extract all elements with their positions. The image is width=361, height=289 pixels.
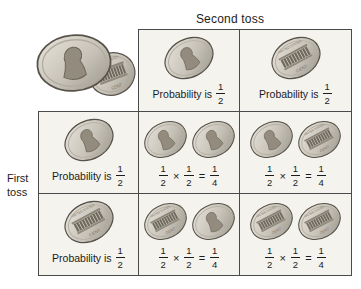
fraction-one-half: 1 2	[323, 82, 332, 105]
probability-text: Probability is	[259, 88, 319, 100]
decorative-coins	[30, 30, 142, 102]
outcome-cell-heads-heads: 12 × 12 = 14	[139, 112, 240, 194]
probability-text: Probability is	[52, 252, 112, 264]
probability-label: Probability is 1 2	[153, 82, 226, 105]
fraction-numerator: 1	[184, 246, 193, 258]
fraction-numerator: 1	[184, 164, 193, 176]
multiply-sign: ×	[173, 252, 179, 264]
fraction-denominator: 2	[161, 176, 166, 187]
penny-tails-icon	[291, 113, 347, 165]
coin-pair	[141, 197, 237, 246]
coin-pair	[141, 115, 237, 164]
fraction-denominator: 2	[267, 176, 272, 187]
probability-label: Probability is 1 2	[52, 246, 125, 269]
penny-tails-icon	[243, 195, 299, 247]
fraction-numerator: 1	[210, 164, 219, 176]
fraction-denominator: 4	[212, 176, 217, 187]
coin-row	[41, 115, 136, 164]
fraction-one-half: 12	[184, 246, 193, 269]
fraction-denominator: 2	[118, 176, 123, 187]
fraction-denominator: 4	[319, 258, 324, 269]
fraction-one-half: 12	[265, 164, 274, 187]
fraction-numerator: 1	[116, 246, 125, 258]
penny-tails-icon	[263, 30, 328, 87]
header-cell-heads: Probability is 1 2	[139, 30, 240, 111]
fraction-one-fourth: 14	[210, 164, 219, 187]
row-label-heads: Probability is 1 2	[39, 112, 139, 194]
penny-heads-icon	[33, 30, 115, 96]
fraction-one-half: 1 2	[116, 246, 125, 269]
penny-heads-icon	[243, 113, 299, 165]
fraction-one-half: 12	[159, 246, 168, 269]
fraction-one-half: 12	[291, 164, 300, 187]
penny-heads-icon	[157, 30, 222, 87]
probability-equation: 12 × 12 = 14	[265, 164, 326, 187]
fraction-denominator: 2	[186, 176, 191, 187]
penny-heads-icon	[56, 112, 121, 169]
row-label-tails: Probability is 1 2	[39, 194, 139, 275]
fraction-one-fourth: 14	[317, 164, 326, 187]
fraction-numerator: 1	[210, 246, 219, 258]
fraction-denominator: 2	[267, 258, 272, 269]
fraction-denominator: 2	[293, 258, 298, 269]
penny-heads-icon	[185, 113, 240, 165]
fraction-one-half: 1 2	[116, 164, 125, 187]
fraction-one-half: 1 2	[216, 82, 225, 105]
equals-sign: =	[199, 170, 205, 182]
probability-equation: 12 × 12 = 14	[265, 246, 326, 269]
fraction-one-half: 12	[265, 246, 274, 269]
fraction-one-fourth: 14	[317, 246, 326, 269]
fraction-numerator: 1	[159, 246, 168, 258]
equals-sign: =	[305, 170, 311, 182]
fraction-one-fourth: 14	[210, 246, 219, 269]
first-toss-label-line2: toss	[7, 185, 28, 199]
penny-tails-icon	[291, 195, 347, 247]
fraction-numerator: 1	[317, 246, 326, 258]
second-toss-header-row: Probability is 1 2 Probability is 1 2	[138, 29, 352, 112]
penny-heads-icon	[139, 113, 193, 165]
probability-label: Probability is 1 2	[52, 164, 125, 187]
fraction-denominator: 4	[319, 176, 324, 187]
fraction-numerator: 1	[323, 82, 332, 94]
outcome-grid: Probability is 1 2 12 × 12 = 14	[38, 111, 352, 276]
equals-sign: =	[199, 252, 205, 264]
fraction-numerator: 1	[265, 246, 274, 258]
equals-sign: =	[305, 252, 311, 264]
first-toss-label-line1: First	[7, 171, 28, 185]
fraction-one-half: 12	[184, 164, 193, 187]
fraction-one-half: 12	[159, 164, 168, 187]
fraction-denominator: 4	[212, 258, 217, 269]
multiply-sign: ×	[279, 170, 285, 182]
outcome-cell-tails-tails: 12 × 12 = 14	[240, 194, 351, 275]
coin-pair	[242, 115, 349, 164]
penny-heads-icon	[185, 195, 240, 247]
fraction-denominator: 2	[161, 258, 166, 269]
coin-row	[41, 197, 136, 246]
fraction-denominator: 2	[293, 176, 298, 187]
first-toss-label: First toss	[7, 171, 28, 200]
fraction-one-half: 12	[291, 246, 300, 269]
fraction-denominator: 2	[325, 94, 330, 105]
header-cell-tails: Probability is 1 2	[240, 30, 351, 111]
fraction-denominator: 2	[118, 258, 123, 269]
coin-row	[242, 33, 349, 82]
coin-row	[141, 33, 237, 82]
fraction-denominator: 2	[218, 94, 223, 105]
probability-text: Probability is	[153, 88, 213, 100]
fraction-denominator: 2	[186, 258, 191, 269]
fraction-numerator: 1	[216, 82, 225, 94]
fraction-numerator: 1	[159, 164, 168, 176]
second-toss-title: Second toss	[120, 12, 340, 26]
multiply-sign: ×	[173, 170, 179, 182]
probability-text: Probability is	[52, 170, 112, 182]
coin-pair	[242, 197, 349, 246]
probability-equation: 12 × 12 = 14	[159, 246, 220, 269]
fraction-numerator: 1	[291, 164, 300, 176]
penny-tails-icon	[139, 195, 193, 247]
fraction-numerator: 1	[291, 246, 300, 258]
outcome-cell-tails-heads: 12 × 12 = 14	[139, 194, 240, 275]
probability-equation: 12 × 12 = 14	[159, 164, 220, 187]
fraction-numerator: 1	[265, 164, 274, 176]
probability-outcome-table-figure: UNITED STATES CENT Second toss First tos…	[0, 0, 361, 289]
outcome-cell-heads-tails: 12 × 12 = 14	[240, 112, 351, 194]
